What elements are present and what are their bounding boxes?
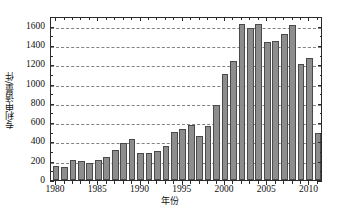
y-tick-mark	[320, 94, 323, 95]
y-tick-mark	[50, 56, 53, 57]
y-tick-label: 1400	[26, 41, 45, 51]
x-tick-mark	[292, 181, 293, 184]
y-tick-mark	[50, 46, 54, 47]
y-tick-mark	[50, 85, 54, 86]
bar	[154, 151, 161, 180]
y-tick-label: 1600	[26, 22, 45, 32]
x-tick-mark	[199, 181, 200, 184]
y-tick-label: 0	[40, 176, 45, 186]
bar	[61, 167, 68, 181]
y-tick-mark	[318, 46, 322, 47]
y-tick-mark	[50, 142, 54, 143]
x-tick-mark	[190, 17, 191, 20]
y-tick-label: 200	[31, 157, 45, 167]
y-tick-mark	[320, 113, 323, 114]
x-tick-mark	[114, 17, 115, 20]
bar	[315, 133, 322, 180]
bar	[103, 157, 110, 180]
x-tick-mark	[275, 17, 276, 20]
x-tick-mark	[165, 17, 166, 20]
bar	[272, 41, 279, 180]
y-tick-mark	[320, 152, 323, 153]
y-tick-mark	[50, 123, 54, 124]
bar	[78, 161, 85, 180]
y-tick-mark	[50, 104, 54, 105]
bar	[70, 160, 77, 180]
bar	[188, 125, 195, 180]
plot-area	[50, 17, 322, 181]
x-tick-label: 1985	[88, 184, 107, 195]
bar	[264, 42, 271, 180]
x-tick-label: 1980	[46, 184, 65, 195]
bar	[222, 74, 229, 180]
x-tick-mark	[283, 181, 284, 184]
y-tick-mark	[50, 17, 53, 18]
figure-caption	[0, 214, 340, 222]
y-tick-label: 1000	[26, 80, 45, 90]
x-tick-mark	[72, 17, 73, 20]
x-tick-mark	[123, 17, 124, 20]
bar	[205, 126, 212, 181]
y-tick-mark	[318, 65, 322, 66]
bar	[230, 61, 237, 180]
bar	[86, 163, 93, 180]
bar-series	[51, 18, 321, 180]
bar	[120, 143, 127, 180]
x-tick-mark	[249, 17, 250, 20]
bar	[95, 160, 102, 180]
x-tick-mark	[182, 17, 183, 21]
y-tick-mark	[318, 104, 322, 105]
x-tick-mark	[64, 17, 65, 20]
bar	[255, 24, 262, 180]
y-tick-mark	[50, 113, 53, 114]
y-tick-mark	[320, 36, 323, 37]
x-tick-mark	[232, 17, 233, 20]
x-tick-mark	[80, 181, 81, 184]
x-tick-mark	[224, 17, 225, 21]
x-tick-mark	[308, 17, 309, 21]
y-tick-label: 800	[31, 99, 45, 109]
y-tick-mark	[50, 181, 54, 182]
patent-application-bar-chart: 专利申请量/件 02004006008001000120014001600 19…	[0, 0, 340, 222]
bar	[281, 34, 288, 180]
x-tick-mark	[55, 17, 56, 21]
x-tick-mark	[207, 181, 208, 184]
x-axis-title: 年份	[0, 196, 340, 206]
x-tick-mark	[165, 181, 166, 184]
y-tick-mark	[320, 75, 323, 76]
y-tick-mark	[318, 85, 322, 86]
bar	[298, 64, 305, 180]
y-tick-mark	[50, 27, 54, 28]
x-tick-mark	[131, 17, 132, 20]
bar	[239, 24, 246, 180]
x-tick-mark	[114, 181, 115, 184]
bar	[289, 25, 296, 180]
y-tick-mark	[320, 171, 323, 172]
y-tick-label: 400	[31, 138, 45, 148]
x-tick-mark	[207, 17, 208, 20]
bar	[306, 58, 313, 180]
x-tick-label: 2005	[257, 184, 276, 195]
x-tick-mark	[258, 17, 259, 20]
y-axis-tick-labels: 02004006008001000120014001600	[0, 0, 50, 222]
x-tick-mark	[266, 17, 267, 21]
y-tick-mark	[320, 17, 323, 18]
bar	[247, 28, 254, 180]
x-tick-mark	[292, 17, 293, 20]
x-tick-label: 1990	[130, 184, 149, 195]
y-tick-mark	[318, 142, 322, 143]
y-tick-mark	[50, 152, 53, 153]
x-tick-label: 2000	[215, 184, 234, 195]
y-tick-mark	[50, 75, 53, 76]
x-tick-label: 2010	[299, 184, 318, 195]
x-tick-mark	[300, 17, 301, 20]
y-tick-label: 1200	[26, 60, 45, 70]
x-tick-mark	[97, 17, 98, 21]
x-tick-mark	[199, 17, 200, 20]
bar	[129, 139, 136, 180]
y-tick-mark	[50, 65, 54, 66]
y-tick-mark	[318, 162, 322, 163]
y-tick-label: 600	[31, 118, 45, 128]
x-tick-mark	[106, 17, 107, 20]
y-tick-mark	[318, 123, 322, 124]
